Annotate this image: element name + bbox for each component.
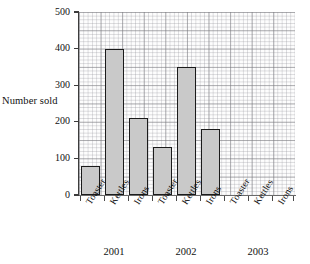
x-tick-7: [248, 196, 249, 201]
x-tick-6: [224, 196, 225, 201]
group-label-2002: 2002: [163, 246, 209, 257]
y-tick-400: [74, 48, 79, 49]
y-tick-0: [74, 194, 79, 195]
group-label-2001: 2001: [91, 246, 137, 257]
bar-2001-irons: [129, 118, 148, 195]
y-tick-label-500: 500: [48, 7, 70, 17]
group-label-2003: 2003: [235, 246, 281, 257]
x-tick-4: [176, 196, 177, 201]
plot-area: [79, 12, 295, 195]
y-tick-500: [74, 11, 79, 12]
x-tick-2: [128, 196, 129, 201]
y-tick-300: [74, 85, 79, 86]
y-tick-label-100: 100: [48, 153, 70, 163]
x-tick-0: [80, 196, 81, 201]
bar-chart: Number sold 5004003002001000 ToasterKett…: [0, 0, 310, 264]
x-tick-3: [152, 196, 153, 201]
y-tick-label-200: 200: [48, 116, 70, 126]
y-axis-line: [78, 11, 79, 196]
bar-2001-kettles: [105, 49, 124, 195]
y-tick-label-300: 300: [48, 80, 70, 90]
x-tick-end: [293, 196, 294, 201]
y-tick-200: [74, 121, 79, 122]
bar-2002-kettles: [177, 67, 196, 195]
x-tick-1: [104, 196, 105, 201]
y-tick-label-400: 400: [48, 43, 70, 53]
x-tick-5: [200, 196, 201, 201]
y-axis-label: Number sold: [2, 95, 74, 106]
y-tick-100: [74, 158, 79, 159]
y-tick-label-0: 0: [48, 190, 70, 200]
x-tick-8: [272, 196, 273, 201]
